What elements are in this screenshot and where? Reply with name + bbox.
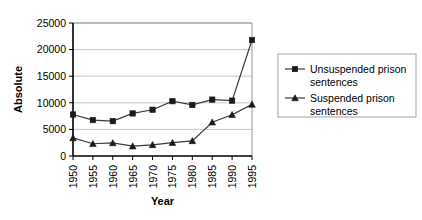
x-axis-ticks: 1950195519601965197019751980198519901995: [67, 156, 258, 188]
data-point: [110, 118, 115, 123]
plot-frame: [73, 23, 252, 156]
y-tick-label: 20000: [37, 43, 66, 55]
x-tick-label: 1980: [186, 165, 198, 189]
data-point: [249, 101, 256, 107]
x-tick-label: 1985: [206, 165, 218, 189]
y-tick-label: 5000: [43, 123, 67, 135]
data-point: [249, 37, 254, 42]
x-tick-label: 1970: [147, 165, 159, 189]
x-tick-label: 1990: [226, 165, 238, 189]
data-point: [70, 112, 75, 117]
data-point: [229, 98, 234, 103]
legend-label-wrap: sentences: [310, 76, 358, 88]
chart-canvas: 0500010000150002000025000195019551960196…: [0, 0, 422, 220]
data-point: [229, 111, 236, 117]
data-point: [130, 111, 135, 116]
x-tick-label: 1955: [87, 165, 99, 189]
series-2: [70, 101, 256, 149]
x-tick-label: 1975: [166, 165, 178, 189]
y-axis-title: Absolute: [12, 66, 24, 113]
gridlines: [73, 23, 252, 129]
legend-marker-square: [292, 66, 297, 71]
x-tick-label: 1965: [127, 165, 139, 189]
legend-label-wrap: sentences: [310, 105, 358, 117]
y-tick-label: 15000: [37, 70, 66, 82]
legend: Unsuspended prisonsentencesSuspended pri…: [278, 54, 416, 117]
y-axis-ticks: 0500010000150002000025000: [37, 17, 73, 162]
legend-label: Unsuspended prison: [310, 63, 406, 75]
x-tick-label: 1950: [67, 165, 79, 189]
data-point: [210, 97, 215, 102]
x-axis-title: Year: [151, 195, 175, 207]
x-tick-label: 1960: [107, 165, 119, 189]
line-chart: 0500010000150002000025000195019551960196…: [0, 0, 422, 220]
data-point: [70, 135, 77, 141]
series-line: [73, 104, 252, 146]
series-1: [70, 37, 254, 124]
data-point: [90, 117, 95, 122]
x-tick-label: 1995: [246, 165, 258, 189]
y-tick-label: 10000: [37, 97, 66, 109]
legend-label: Suspended prison: [310, 92, 395, 104]
data-point: [190, 102, 195, 107]
data-point: [170, 99, 175, 104]
y-tick-label: 25000: [37, 17, 66, 29]
data-point: [150, 107, 155, 112]
series-line: [73, 40, 252, 121]
y-tick-label: 0: [60, 150, 66, 162]
